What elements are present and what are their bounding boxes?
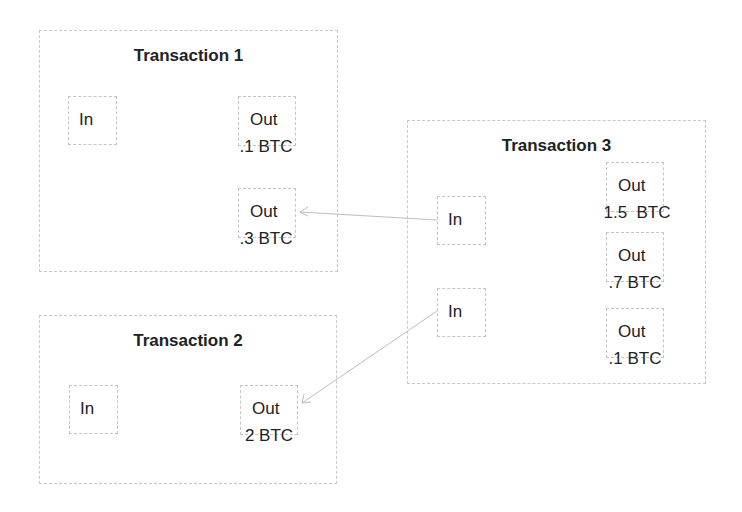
- tx2-output-1-label: Out: [252, 399, 279, 419]
- tx2-output-1-amount: 2 BTC: [229, 426, 309, 446]
- tx1-output-2-label: Out: [250, 202, 277, 222]
- tx3-output-2-label: Out: [618, 246, 645, 266]
- tx3-output-3-amount: .1 BTC: [595, 349, 675, 369]
- tx3-output-2-amount: .7 BTC: [595, 273, 675, 293]
- tx1-output-1-label: Out: [250, 110, 277, 130]
- transaction-1-title: Transaction 1: [40, 46, 337, 66]
- transaction-2-title: Transaction 2: [40, 331, 336, 351]
- tx3-output-1-amount: 1.5 BTC: [592, 203, 682, 223]
- tx1-output-2-amount: .3 BTC: [226, 229, 306, 249]
- tx3-input-1-label: In: [448, 210, 462, 230]
- tx3-input-2-label: In: [448, 302, 462, 322]
- tx1-output-1-amount: .1 BTC: [226, 137, 306, 157]
- tx3-output-3-label: Out: [618, 322, 645, 342]
- transaction-3-title: Transaction 3: [408, 136, 705, 156]
- tx2-input-label: In: [80, 399, 94, 419]
- tx3-output-1-label: Out: [618, 176, 645, 196]
- tx1-input-label: In: [79, 110, 93, 130]
